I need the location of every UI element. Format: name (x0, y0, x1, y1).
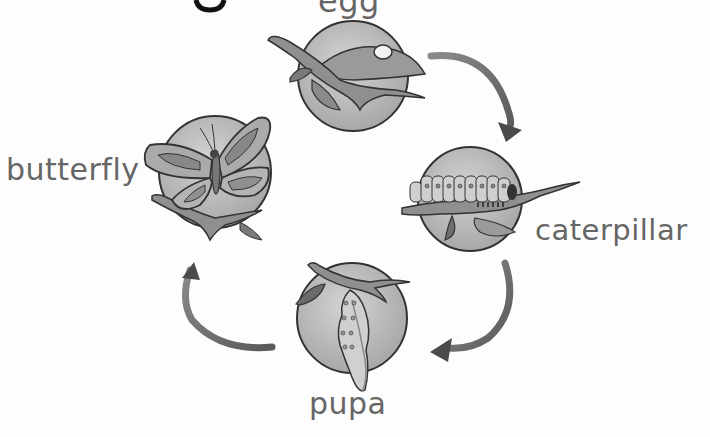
stage-label-caterpillar: caterpillar (535, 213, 688, 247)
butterfly-illustration (145, 116, 271, 240)
arrow-egg-to-caterpillar (431, 55, 522, 142)
stage-label-butterfly: butterfly (6, 152, 140, 187)
pupa-illustration (296, 263, 410, 392)
arrow-caterpillar-to-pupa (430, 263, 510, 362)
egg-illustration (268, 21, 425, 131)
arrow-pupa-to-butterfly (182, 262, 272, 348)
title-fragment (196, 0, 224, 10)
stage-label-egg: egg (318, 0, 380, 20)
stage-label-pupa: pupa (309, 386, 386, 421)
butterfly-life-cycle-diagram: egg butterfly caterpillar pupa (0, 0, 710, 437)
